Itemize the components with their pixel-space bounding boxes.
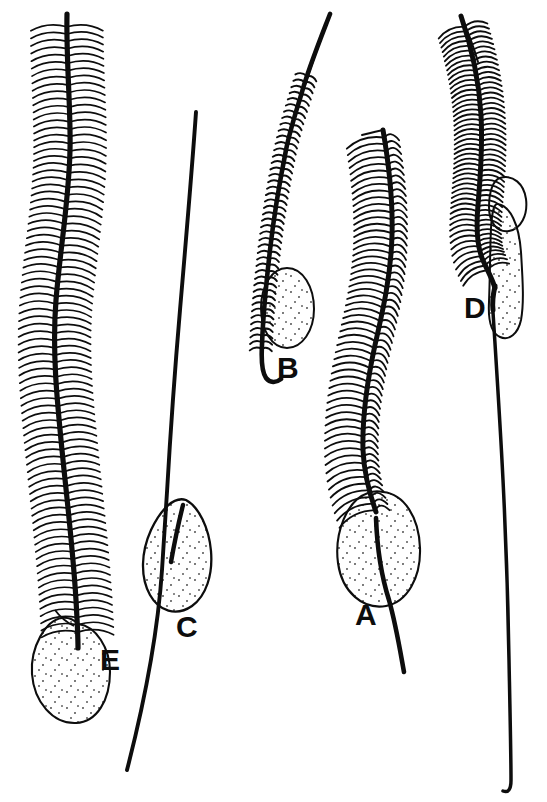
panel-e-shaft-tip [66, 14, 67, 28]
panel-label-d: D [464, 291, 486, 324]
figure-canvas: E C B A [0, 0, 547, 802]
panel-label-b: B [277, 351, 299, 384]
panel-d-blade-midrib [493, 286, 495, 310]
panel-label-a: A [355, 598, 377, 631]
panel-label-c: C [176, 610, 198, 643]
setae-plate-illustration: E C B A [0, 0, 547, 802]
panel-label-e: E [100, 643, 120, 676]
